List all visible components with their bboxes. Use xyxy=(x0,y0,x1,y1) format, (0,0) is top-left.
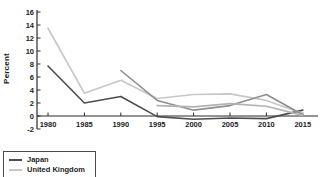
legend-line-swatch xyxy=(9,159,22,161)
y-tick-label: 16 xyxy=(26,8,34,17)
x-tick-label: 1985 xyxy=(76,120,93,129)
y-tick-label: 4 xyxy=(30,86,35,95)
x-tick-label: 1980 xyxy=(40,120,57,129)
legend-line-swatch xyxy=(9,169,22,171)
x-tick-label: 2000 xyxy=(185,120,202,129)
x-tick-label: 1995 xyxy=(149,120,166,129)
y-tick-label: 8 xyxy=(30,60,34,69)
x-tick-label: 1990 xyxy=(112,120,129,129)
legend-item: Japan xyxy=(9,156,90,164)
chart-figure: Percent 1614121086420-219801985199019952… xyxy=(0,0,324,177)
legend-label: United Kingdom xyxy=(27,166,85,174)
legend-box: JapanUnited Kingdom xyxy=(3,151,96,177)
legend-item: United Kingdom xyxy=(9,166,90,174)
y-tick-label: 10 xyxy=(26,47,34,56)
y-tick-label: -2 xyxy=(27,125,34,134)
series-line-united-kingdom xyxy=(48,28,303,113)
y-tick-label: 6 xyxy=(30,73,34,82)
x-tick-label: 2005 xyxy=(222,120,239,129)
legend-label: Japan xyxy=(27,156,49,164)
x-tick-label: 2015 xyxy=(294,120,311,129)
y-tick-label: 12 xyxy=(26,34,34,43)
x-tick-label: 2010 xyxy=(258,120,275,129)
y-tick-label: 14 xyxy=(26,21,35,30)
y-tick-label: 2 xyxy=(30,99,34,108)
y-tick-label: 0 xyxy=(30,112,34,121)
